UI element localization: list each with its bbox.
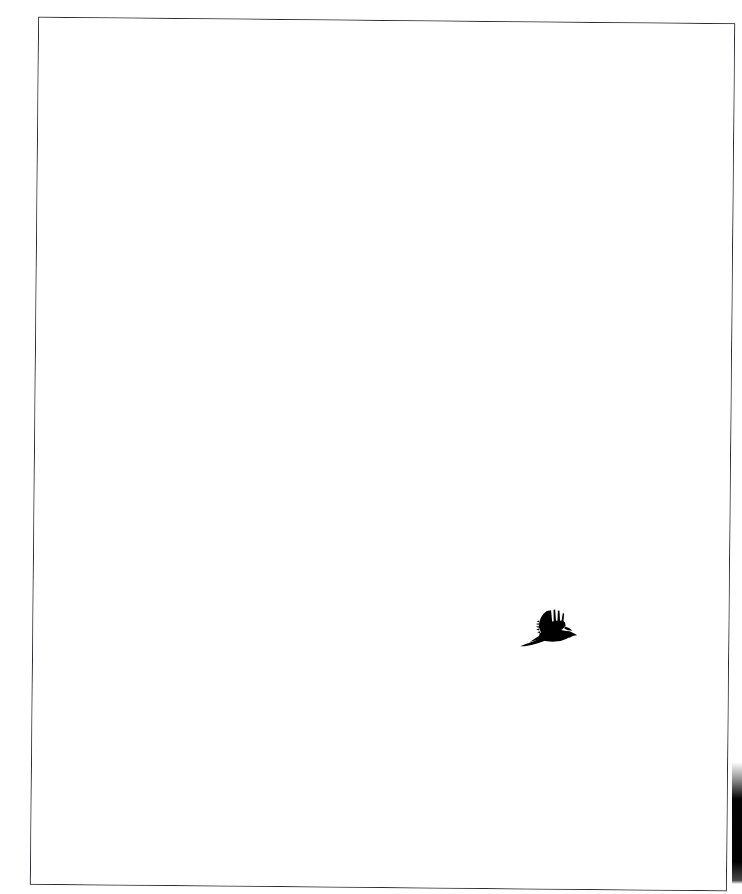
- bird-silhouette: [518, 605, 579, 654]
- photo-scene: [0, 0, 742, 894]
- scan-edge-shadow: [732, 762, 742, 884]
- photo-border: [30, 17, 735, 892]
- sky-background: [31, 18, 734, 891]
- bird-shape: [520, 609, 577, 647]
